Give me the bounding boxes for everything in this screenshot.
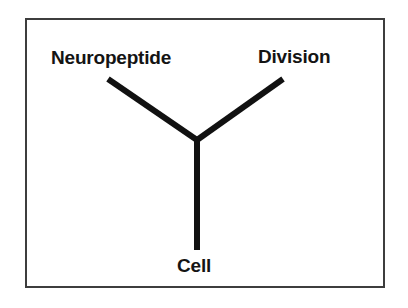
node-label-division: Division: [258, 47, 330, 66]
node-label-neuropeptide: Neuropeptide: [51, 48, 171, 67]
node-label-cell: Cell: [177, 256, 211, 275]
figure-container: Neuropeptide Division Cell: [0, 0, 408, 308]
